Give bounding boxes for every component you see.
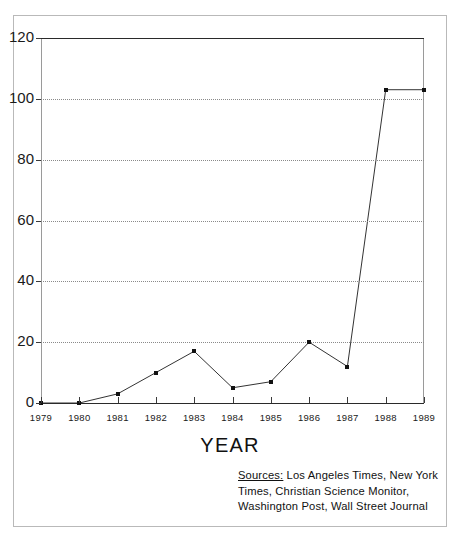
gridline-20 [41, 342, 424, 343]
x-tick-label-1987: 1987 [327, 412, 367, 423]
y-tick-mark-40 [36, 281, 41, 282]
y-tick-mark-120 [36, 38, 41, 39]
x-tick-mark-1986 [309, 397, 310, 403]
sources-note: Sources: Los Angeles Times, New York Tim… [238, 468, 448, 515]
gridline-60 [41, 221, 424, 222]
y-tick-label-80: 80 [0, 150, 34, 167]
x-tick-label-1980: 1980 [59, 412, 99, 423]
gridline-0 [41, 403, 424, 404]
data-point-1982 [154, 371, 158, 375]
x-tick-label-1982: 1982 [136, 412, 176, 423]
x-tick-mark-1989 [424, 397, 425, 403]
sources-line-1: Sources: Los Angeles Times, New York [238, 468, 448, 484]
x-tick-label-1981: 1981 [98, 412, 138, 423]
y-tick-label-0: 0 [0, 393, 34, 410]
x-tick-mark-1981 [118, 397, 119, 403]
y-tick-label-60: 60 [0, 211, 34, 228]
x-tick-mark-1980 [79, 397, 80, 403]
x-tick-mark-1979 [41, 397, 42, 403]
y-tick-mark-100 [36, 99, 41, 100]
x-tick-label-1986: 1986 [289, 412, 329, 423]
x-tick-label-1984: 1984 [213, 412, 253, 423]
x-tick-mark-1988 [386, 397, 387, 403]
y-tick-mark-80 [36, 160, 41, 161]
x-tick-mark-1985 [271, 397, 272, 403]
data-point-1987 [345, 365, 349, 369]
y-tick-label-40: 40 [0, 271, 34, 288]
data-point-1988 [384, 88, 388, 92]
x-tick-mark-1983 [194, 397, 195, 403]
data-point-1985 [269, 380, 273, 384]
x-tick-label-1988: 1988 [366, 412, 406, 423]
x-tick-label-1989: 1989 [404, 412, 444, 423]
sources-line-2: Times, Christian Science Monitor, [238, 484, 448, 500]
x-tick-mark-1987 [347, 397, 348, 403]
gridline-120 [41, 38, 424, 39]
data-point-1984 [231, 386, 235, 390]
line-chart-figure: 020406080100120 197919801981198219831984… [0, 0, 460, 550]
x-axis-title: YEAR [0, 434, 460, 457]
y-tick-mark-20 [36, 342, 41, 343]
y-tick-mark-60 [36, 221, 41, 222]
plot-area [41, 38, 424, 403]
data-point-1986 [307, 340, 311, 344]
x-tick-mark-1984 [233, 397, 234, 403]
data-point-1981 [116, 392, 120, 396]
x-tick-label-1983: 1983 [174, 412, 214, 423]
y-tick-mark-0 [36, 403, 41, 404]
x-tick-mark-1982 [156, 397, 157, 403]
gridline-80 [41, 160, 424, 161]
x-tick-label-1985: 1985 [251, 412, 291, 423]
data-point-1983 [192, 349, 196, 353]
y-tick-label-20: 20 [0, 332, 34, 349]
y-tick-label-100: 100 [0, 89, 34, 106]
sources-line-3: Washington Post, Wall Street Journal [238, 499, 448, 515]
gridline-100 [41, 99, 424, 100]
sources-text-1: Los Angeles Times, New York [283, 469, 438, 481]
x-tick-label-1979: 1979 [21, 412, 61, 423]
data-point-1989 [422, 88, 426, 92]
y-tick-label-120: 120 [0, 28, 34, 45]
sources-label: Sources: [238, 469, 283, 481]
gridline-40 [41, 281, 424, 282]
